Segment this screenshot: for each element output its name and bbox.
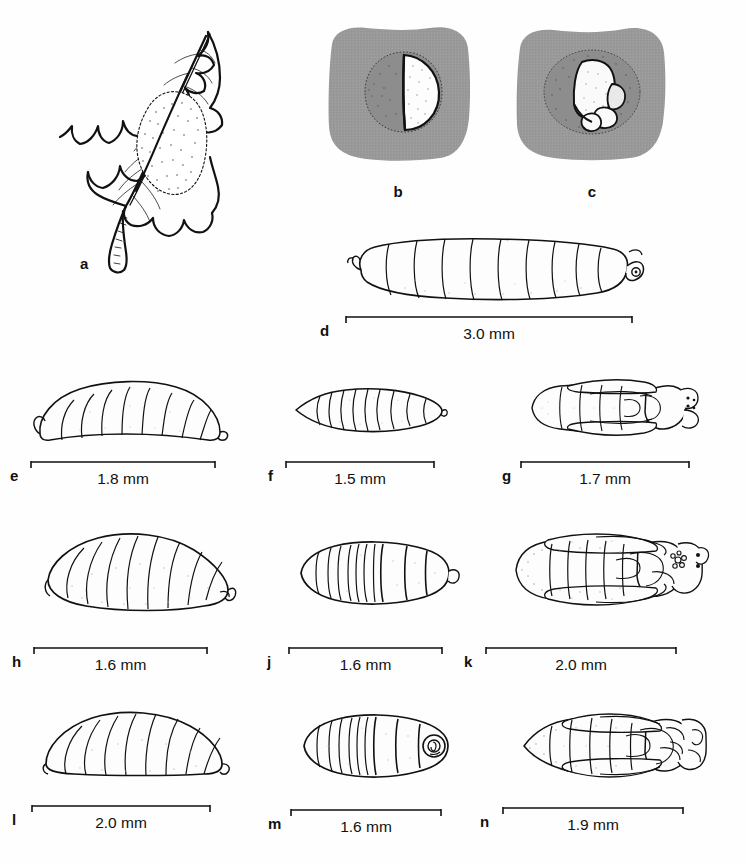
panel-label-m: m <box>268 816 281 831</box>
scale-bar-line-l <box>31 804 211 813</box>
panel-l: 2.0 mm l <box>40 706 230 781</box>
scale-bar-line-j <box>288 646 443 655</box>
larva-lateral-illustration-e <box>30 372 230 447</box>
scale-value-l: 2.0 mm <box>31 814 211 832</box>
larva-dorsal-illustration-j <box>297 533 462 613</box>
egg-parasitoid-illustration-c <box>508 22 676 177</box>
scale-value-j: 1.6 mm <box>288 656 443 674</box>
panel-b: b <box>318 22 478 177</box>
panel-a: a <box>60 20 240 275</box>
scale-bar-line-k <box>485 646 677 655</box>
leaf-illustration <box>60 20 240 275</box>
panel-e: 1.8 mm e <box>30 372 230 447</box>
scale-value-n: 1.9 mm <box>502 816 684 834</box>
pupa-ventral-illustration-n <box>520 706 710 784</box>
panel-label-h: h <box>12 654 21 669</box>
larva-dorsal-illustration-m <box>300 708 460 783</box>
panel-label-e: e <box>10 468 18 483</box>
scale-bar-line-m <box>290 808 442 817</box>
panel-n: 1.9 mm n <box>520 706 710 784</box>
panel-label-c: c <box>508 184 676 199</box>
scale-value-h: 1.6 mm <box>33 656 208 674</box>
panel-h: 1.6 mm h <box>42 528 237 618</box>
panel-f: 1.5 mm f <box>290 378 450 443</box>
scale-value-d: 3.0 mm <box>345 325 633 343</box>
panel-label-f: f <box>268 468 273 483</box>
larva-lateral-illustration-d <box>345 230 655 305</box>
scale-bar-line-e <box>30 460 216 469</box>
scale-bar-line-h <box>33 646 208 655</box>
panel-k: 2.0 mm k <box>512 528 712 613</box>
panel-label-j: j <box>267 654 271 669</box>
pupa-ventral-illustration-g <box>528 372 703 442</box>
panel-c: c <box>508 22 676 177</box>
figure-plate: a <box>0 0 746 864</box>
scale-bar-line-g <box>520 460 690 469</box>
scale-value-f: 1.5 mm <box>285 470 435 488</box>
panel-g: 1.7 mm g <box>528 372 703 442</box>
scale-value-g: 1.7 mm <box>520 470 690 488</box>
scale-value-k: 2.0 mm <box>485 656 677 674</box>
panel-m: 1.6 mm m <box>300 708 460 783</box>
panel-label-k: k <box>464 654 472 669</box>
panel-label-l: l <box>12 812 16 827</box>
larva-dorsal-illustration-f <box>290 378 450 443</box>
panel-label-d: d <box>320 323 329 338</box>
larva-lateral-illustration-h <box>42 528 237 618</box>
larva-lateral-illustration-l <box>40 706 230 781</box>
egg-illustration-b <box>318 22 478 177</box>
panel-d: 3.0 mm d <box>345 230 655 305</box>
panel-label-g: g <box>502 468 511 483</box>
panel-label-n: n <box>480 814 489 829</box>
scale-bar-line-n <box>502 806 684 815</box>
scale-bar-line-f <box>285 460 435 469</box>
pupa-ventral-illustration-k <box>512 528 712 613</box>
scale-value-m: 1.6 mm <box>290 818 442 836</box>
panel-label-b: b <box>318 184 478 199</box>
scale-value-e: 1.8 mm <box>30 470 216 488</box>
panel-label-a: a <box>80 256 88 271</box>
panel-j: 1.6 mm j <box>297 533 462 613</box>
scale-bar-line-d <box>345 315 633 324</box>
